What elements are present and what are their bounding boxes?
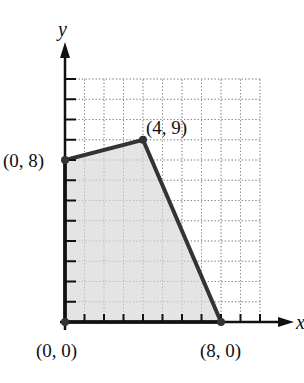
y-axis-arrow-icon bbox=[60, 42, 70, 58]
y-axis-label: y bbox=[56, 18, 67, 41]
x-axis-arrow-icon bbox=[278, 317, 294, 327]
feasible-region-chart: y x (0, 0) (0, 8) (4, 9) (8, 0) bbox=[0, 0, 304, 383]
vertex-label-4-9: (4, 9) bbox=[146, 117, 187, 139]
vertex-label-8-0: (8, 0) bbox=[200, 340, 241, 362]
x-axis-label: x bbox=[295, 311, 304, 333]
vertex-label-0-0: (0, 0) bbox=[36, 340, 77, 362]
vertex-label-0-8: (0, 8) bbox=[3, 150, 44, 172]
